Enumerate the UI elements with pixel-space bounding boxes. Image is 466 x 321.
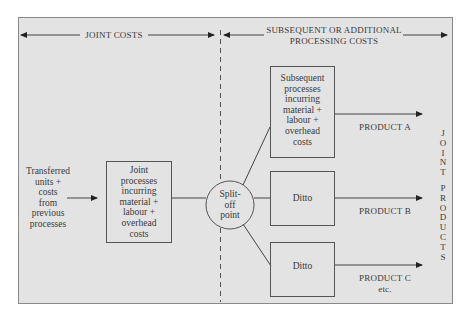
joint-box-line: Joint [107,165,171,176]
box-a-line: material + [271,105,334,116]
joint-box-line: costs [107,229,171,240]
input-line: Transferred [24,166,72,177]
subsequent-process-box-c: Ditto [270,242,335,297]
product-c-name: PRODUCT C [350,273,420,284]
subsequent-costs-line1: SUBSEQUENT OR ADDITIONAL [266,25,402,36]
subsequent-costs-label: SUBSEQUENT OR ADDITIONAL PROCESSING COST… [266,25,402,46]
split-off-line: point [208,210,252,221]
product-c-note: etc. [350,284,420,295]
joint-box-line: incurring [107,186,171,197]
split-off-label: Split- off point [208,189,252,221]
side-letter: S [438,253,448,263]
product-a-label: PRODUCT A [350,122,420,133]
joint-box-line: material + [107,197,171,208]
box-a-line: processes [271,84,334,95]
joint-box-line: processes [107,176,171,187]
product-b-label: PRODUCT B [350,206,420,217]
box-a-line: incurring [271,94,334,105]
input-label: Transferred units + costs from previous … [24,166,72,230]
box-c-label: Ditto [271,261,334,272]
box-a-line: costs [271,137,334,148]
box-a-line: Subsequent [271,73,334,84]
input-line: processes [24,219,72,230]
box-a-line: labour + [271,115,334,126]
box-b-label: Ditto [271,193,334,204]
product-c-label: PRODUCT C etc. [350,273,420,294]
joint-products-vertical-label: J O I N T P R O D U C T S [438,129,448,262]
subsequent-costs-line2: PROCESSING COSTS [266,36,402,47]
joint-process-box: Joint processes incurring material + lab… [106,161,172,243]
side-letter: T [438,168,448,178]
subsequent-process-box-a: Subsequent processes incurring material … [270,66,335,158]
box-a-line: overhead [271,126,334,137]
input-line: from [24,198,72,209]
input-line: previous [24,208,72,219]
input-line: costs [24,187,72,198]
split-off-line: Split- [208,189,252,200]
joint-box-line: overhead [107,218,171,229]
branch-line-c [243,224,271,266]
joint-box-line: labour + [107,207,171,218]
subsequent-process-box-b: Ditto [270,171,335,226]
branch-line-a [243,127,270,185]
split-off-line: off [208,200,252,211]
joint-costs-label: JOINT COSTS [82,30,146,41]
input-line: units + [24,177,72,188]
